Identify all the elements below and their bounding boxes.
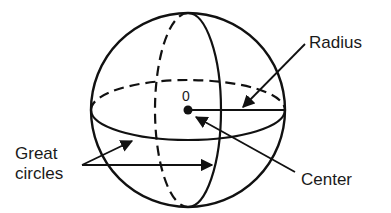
origin-label: 0: [182, 88, 190, 105]
radius-label: Radius: [309, 34, 362, 51]
center-point: [184, 106, 193, 115]
meridian-back-dashed: [155, 13, 188, 207]
great-circles-label-line2: circles: [15, 165, 63, 182]
radius-pointer-arrow: [243, 44, 305, 107]
great-circles-label-line1: Great: [15, 145, 58, 162]
center-pointer-arrow: [196, 117, 295, 172]
center-label: Center: [301, 171, 352, 188]
